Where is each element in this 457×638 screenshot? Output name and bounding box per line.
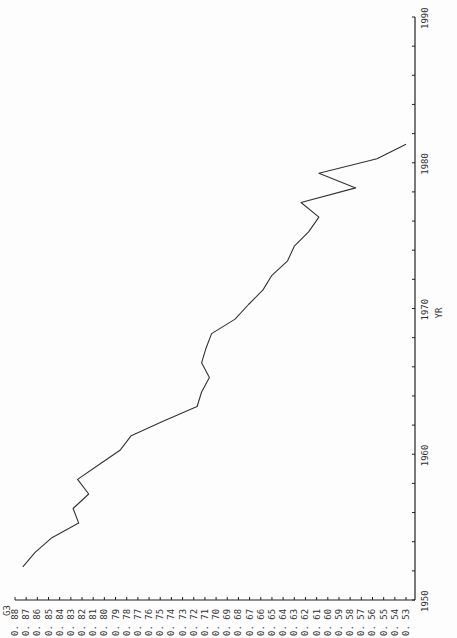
value-tick-label: 0. 63 — [289, 609, 299, 636]
value-tick-label: 0. 64 — [278, 609, 288, 636]
line-chart: 0. 880. 870. 860. 850. 840. 830. 820. 81… — [0, 0, 457, 638]
value-tick-label: 0. 65 — [267, 609, 277, 636]
g3-axis-label: G3 — [2, 605, 12, 616]
value-tick-label: 0. 67 — [245, 609, 255, 636]
g3-series-line — [23, 144, 406, 567]
value-tick-label: 0. 69 — [222, 609, 232, 636]
year-axis: 19501960197019801990 — [412, 7, 430, 612]
value-tick-label: 0. 86 — [32, 609, 42, 636]
value-tick-label: 0. 57 — [356, 609, 366, 636]
value-tick-label: 0. 84 — [55, 609, 65, 636]
value-tick-label: 0. 83 — [66, 609, 76, 636]
year-tick-label: 1970 — [420, 299, 430, 321]
value-tick-label: 0. 85 — [44, 609, 54, 636]
g3-value-axis: 0. 880. 870. 860. 850. 840. 830. 820. 81… — [10, 597, 415, 636]
value-tick-label: 0. 75 — [155, 609, 165, 636]
value-tick-label: 0. 76 — [144, 609, 154, 636]
year-tick-label: 1980 — [420, 153, 430, 175]
value-tick-label: 0. 60 — [323, 609, 333, 636]
value-tick-label: 0. 59 — [334, 609, 344, 636]
value-tick-label: 0. 70 — [211, 609, 221, 636]
value-tick-label: 0. 68 — [233, 609, 243, 636]
value-tick-label: 0. 74 — [166, 609, 176, 636]
value-tick-label: 0. 73 — [178, 609, 188, 636]
value-tick-label: 0. 55 — [379, 609, 389, 636]
value-tick-label: 0. 62 — [300, 609, 310, 636]
value-tick-label: 0. 58 — [345, 609, 355, 636]
value-tick-label: 0. 78 — [122, 609, 132, 636]
value-tick-label: 0. 79 — [111, 609, 121, 636]
value-tick-label: 0. 61 — [312, 609, 322, 636]
year-tick-label: 1960 — [420, 445, 430, 467]
value-tick-label: 0. 56 — [367, 609, 377, 636]
value-tick-label: 0. 72 — [189, 609, 199, 636]
value-tick-label: 0. 82 — [77, 609, 87, 636]
value-tick-label: 0. 54 — [390, 609, 400, 636]
value-tick-label: 0. 71 — [200, 609, 210, 636]
year-tick-label: 1990 — [420, 7, 430, 29]
value-tick-label: 0. 81 — [88, 609, 98, 636]
value-tick-label: 0. 77 — [133, 609, 143, 636]
year-tick-label: 1950 — [420, 590, 430, 612]
value-tick-label: 0. 80 — [99, 609, 109, 636]
value-tick-label: 0. 66 — [256, 609, 266, 636]
value-tick-label: 0. 87 — [21, 609, 31, 636]
yr-axis-label: YR — [434, 307, 444, 318]
value-tick-label: 0. 53 — [401, 609, 411, 636]
